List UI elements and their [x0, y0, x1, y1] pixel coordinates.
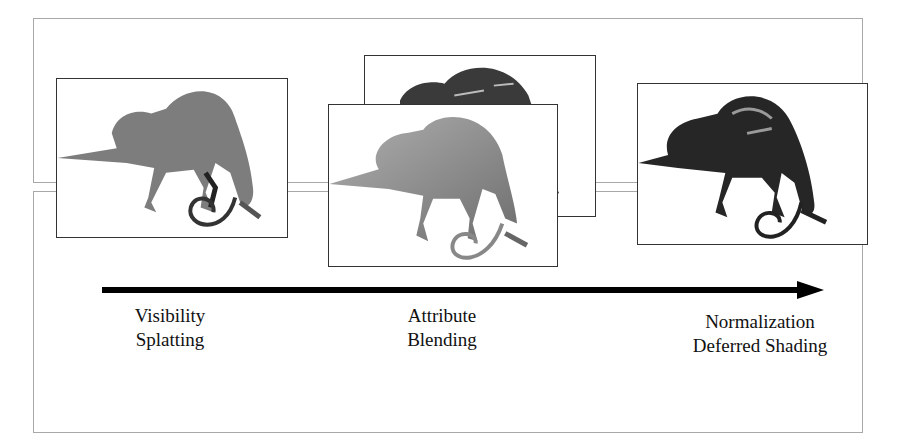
stage-label-normalization-deferred-shading: Normalization Deferred Shading	[660, 310, 860, 358]
attribute-blending-front-image	[328, 104, 558, 267]
visibility-splatting-image	[56, 78, 288, 238]
label-line: Visibility	[100, 304, 240, 328]
stage-label-attribute-blending: Attribute Blending	[372, 304, 512, 352]
label-line: Blending	[372, 328, 512, 352]
label-line: Deferred Shading	[660, 334, 860, 358]
chameleon-smooth-icon	[329, 105, 557, 266]
deferred-shading-image	[637, 83, 868, 245]
label-line: Splatting	[100, 328, 240, 352]
stage-label-visibility-splatting: Visibility Splatting	[100, 304, 240, 352]
label-line: Attribute	[372, 304, 512, 328]
pipeline-arrow-icon	[102, 280, 824, 300]
chameleon-shaded-icon	[638, 84, 867, 244]
label-line: Normalization	[660, 310, 860, 334]
chameleon-flat-icon	[57, 79, 287, 237]
